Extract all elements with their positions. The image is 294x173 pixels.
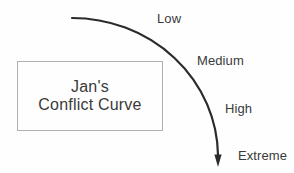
arrow-down-icon (214, 155, 221, 168)
title-line-2: Conflict Curve (38, 96, 141, 114)
title-line-1: Jan's (71, 78, 109, 96)
title-box: Jan's Conflict Curve (17, 61, 163, 131)
curve-label-extreme: Extreme (238, 149, 287, 163)
conflict-curve-diagram: Low Medium High Extreme Jan's Conflict C… (0, 0, 294, 173)
curve-label-medium: Medium (197, 54, 244, 68)
curve-label-low: Low (157, 12, 181, 26)
curve-label-high: High (225, 102, 252, 116)
